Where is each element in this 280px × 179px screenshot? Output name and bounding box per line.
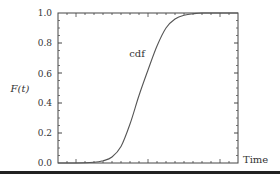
plot-frame: [58, 13, 238, 163]
bottom-divider: [0, 171, 280, 174]
x-axis-label: Time: [243, 154, 268, 165]
cdf-chart: 1.0 0.8 0.6 0.4 0.2 0.0: [0, 0, 280, 179]
y-tick-label-0.0: 0.0: [38, 158, 53, 168]
y-tick-label-1.0: 1.0: [38, 8, 53, 18]
y-tick-label-0.4: 0.4: [38, 98, 53, 108]
y-tick-label-0.6: 0.6: [38, 69, 53, 79]
curve-label: cdf: [129, 48, 146, 59]
y-tick-label-0.8: 0.8: [38, 38, 53, 48]
y-minor-ticks: [58, 21, 238, 156]
cdf-curve: [58, 13, 238, 163]
y-major-ticks: [58, 43, 238, 133]
y-tick-label-0.2: 0.2: [38, 128, 52, 138]
x-ticks: [67, 13, 229, 163]
y-axis-label: F(t): [10, 83, 30, 94]
